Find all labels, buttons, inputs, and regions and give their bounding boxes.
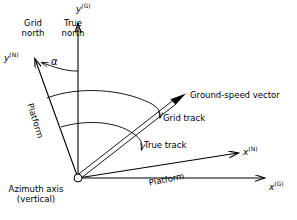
axis-label-y-grid: y(G) xyxy=(76,2,91,14)
label-grid-track: Grid track xyxy=(163,113,205,123)
label-alpha-angle: α xyxy=(51,57,58,67)
label-true-north-line1: True xyxy=(52,18,94,28)
diagram-canvas: Grid north True north y(G) y(N) x(N) x(G… xyxy=(0,0,297,220)
axis-label-x-grid: x(G) xyxy=(269,180,284,192)
axis-x-nav xyxy=(78,153,238,178)
label-true-north: True north xyxy=(52,18,94,38)
axis-label-y-nav-sup: (N) xyxy=(9,51,18,58)
label-azimuth-axis-line1: Azimuth axis xyxy=(0,184,72,194)
axis-y-nav xyxy=(35,59,78,178)
axis-label-x-nav: x(N) xyxy=(243,145,258,157)
angle-arc-true-track xyxy=(61,122,142,150)
angle-arc-alpha xyxy=(42,63,79,72)
label-azimuth-axis-line2: (vertical) xyxy=(0,194,72,204)
axis-label-y-nav: y(N) xyxy=(4,51,19,63)
axis-label-x-nav-sup: (N) xyxy=(248,145,257,152)
axis-label-y-grid-sup: (G) xyxy=(81,2,90,9)
angle-arc-grid-track xyxy=(47,91,160,118)
label-azimuth-axis: Azimuth axis (vertical) xyxy=(0,184,72,204)
azimuth-axis-origin xyxy=(74,174,82,182)
label-true-track: True track xyxy=(144,140,186,150)
label-grid-north-line2: north xyxy=(12,28,54,38)
label-grid-north-line1: Grid xyxy=(12,18,54,28)
ground-speed-vector xyxy=(77,94,186,180)
label-ground-speed-vector: Ground-speed vector xyxy=(190,90,280,100)
axis-label-x-grid-sup: (G) xyxy=(274,180,283,187)
label-true-north-line2: north xyxy=(52,28,94,38)
label-grid-north: Grid north xyxy=(12,18,54,38)
